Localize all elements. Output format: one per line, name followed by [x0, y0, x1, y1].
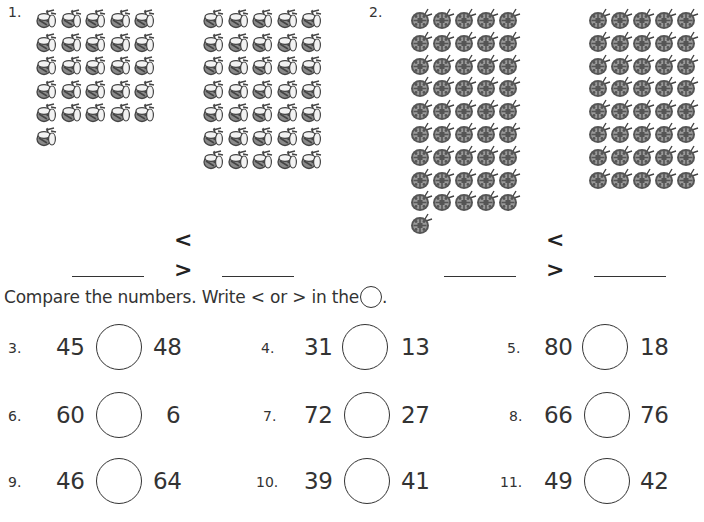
comparison-problem-11: 11. 49 42 [0, 458, 704, 508]
bee-icon [227, 102, 251, 128]
bee-icon [300, 32, 324, 58]
instruction-label: Compare the numbers. Write < or > in the [4, 287, 359, 307]
less-than-symbol-1: < [174, 229, 192, 251]
bee-icon [35, 126, 59, 152]
instruction-text: Compare the numbers. Write < or > in the… [4, 286, 387, 308]
bee-icon [109, 55, 133, 81]
bee-icon [227, 126, 251, 152]
ladybug-icon [497, 190, 521, 216]
bee-icon [276, 79, 300, 105]
bee-icon [60, 102, 84, 128]
ladybug-icon [675, 168, 699, 194]
bee-icon [251, 32, 275, 58]
bee-icon [202, 126, 226, 152]
answer-blank-1-left[interactable] [72, 276, 144, 277]
ladybug-icon [475, 190, 499, 216]
bee-icon [227, 79, 251, 105]
bee-icon [35, 32, 59, 58]
bee-icon [133, 8, 157, 34]
bee-icon [227, 32, 251, 58]
bee-icon [133, 102, 157, 128]
ladybug-icon [609, 168, 633, 194]
bee-icon [202, 8, 226, 34]
bee-icon [251, 55, 275, 81]
bee-icon [133, 32, 157, 58]
bee-icon [133, 55, 157, 81]
answer-blank-2-right[interactable] [594, 276, 666, 277]
instruction-period: . [382, 287, 387, 307]
ladybug-icon [409, 213, 433, 239]
ladybug-icon [653, 168, 677, 194]
bee-icon [202, 55, 226, 81]
bee-icon [251, 8, 275, 34]
bee-icon [35, 79, 59, 105]
bee-icon [60, 79, 84, 105]
bee-icon [84, 102, 108, 128]
bee-icon [227, 149, 251, 175]
bee-icon [133, 79, 157, 105]
bee-icon [84, 55, 108, 81]
ladybug-icon [587, 168, 611, 194]
bee-icon [251, 102, 275, 128]
left-number: 49 [544, 468, 572, 494]
bee-icon [109, 79, 133, 105]
comparison-problem-8: 8. 66 76 [0, 392, 704, 442]
bee-icon [109, 102, 133, 128]
answer-blank-2-left[interactable] [444, 276, 516, 277]
bee-icon [300, 126, 324, 152]
bee-icon [109, 32, 133, 58]
bee-icon [227, 8, 251, 34]
bee-icon [251, 79, 275, 105]
bee-icon [84, 32, 108, 58]
bee-icon [227, 55, 251, 81]
bee-icon [202, 79, 226, 105]
bee-icon [35, 8, 59, 34]
bee-icon [300, 55, 324, 81]
greater-than-symbol-1: > [174, 259, 192, 281]
bee-icon [251, 126, 275, 152]
bee-icon [276, 102, 300, 128]
answer-circle[interactable] [584, 392, 630, 438]
bee-icon [109, 8, 133, 34]
right-number: 76 [640, 402, 668, 428]
left-number: 80 [544, 334, 572, 360]
circle-icon [360, 286, 382, 308]
bee-icon [84, 8, 108, 34]
right-number: 42 [640, 468, 668, 494]
answer-blank-1-right[interactable] [222, 276, 294, 277]
bee-icon [84, 79, 108, 105]
bee-icon [276, 55, 300, 81]
greater-than-symbol-2: > [546, 259, 564, 281]
bee-icon [60, 8, 84, 34]
problem-number: 11. [500, 474, 522, 490]
answer-circle[interactable] [582, 324, 628, 370]
bee-icon [60, 55, 84, 81]
bee-icon [202, 102, 226, 128]
answer-circle[interactable] [584, 458, 630, 504]
bee-icon [276, 8, 300, 34]
bee-icon [276, 149, 300, 175]
bee-icon [35, 102, 59, 128]
bee-icon [202, 32, 226, 58]
ladybug-icon [453, 190, 477, 216]
ladybug-icon [631, 168, 655, 194]
bee-icon [276, 126, 300, 152]
ladybug-icon [431, 190, 455, 216]
bee-icon [276, 32, 300, 58]
bee-icon [60, 32, 84, 58]
problem-number-2: 2. [369, 4, 382, 20]
bee-icon [251, 149, 275, 175]
bee-icon [300, 79, 324, 105]
problem-number: 8. [509, 408, 522, 424]
bee-icon [300, 102, 324, 128]
less-than-symbol-2: < [546, 229, 564, 251]
problem-number-1: 1. [8, 4, 21, 20]
problem-number: 5. [507, 340, 520, 356]
bee-icon [35, 55, 59, 81]
bee-icon [202, 149, 226, 175]
left-number: 66 [544, 402, 572, 428]
bee-icon [300, 149, 324, 175]
comparison-problem-5: 5. 80 18 [0, 324, 704, 374]
bee-icon [300, 8, 324, 34]
right-number: 18 [640, 334, 668, 360]
